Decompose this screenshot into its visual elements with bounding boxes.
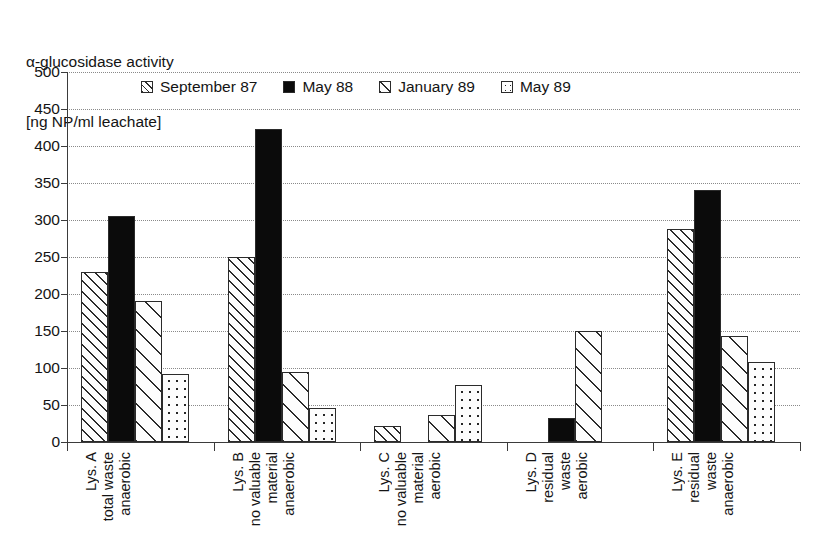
y-tick-450	[61, 109, 68, 110]
x-axis-line	[67, 442, 801, 443]
y-tick-250	[61, 257, 68, 258]
category-label-line: residual	[686, 452, 703, 503]
chart-legend: September 87May 88January 89May 89	[141, 79, 571, 95]
y-tick-150	[61, 331, 68, 332]
bar	[282, 372, 309, 442]
x-tick-3	[507, 443, 508, 451]
y-tick-50	[61, 405, 68, 406]
category-label-line: no valuable	[393, 452, 410, 526]
y-tick-label-50: 50	[12, 397, 60, 413]
category-label: Lys. Bno valuablematerialanaerobic	[230, 452, 298, 552]
category-label-line: Lys. C	[376, 452, 393, 493]
y-tick-label-300: 300	[12, 212, 60, 228]
legend-swatch-icon	[283, 81, 295, 93]
y-tick-label-400: 400	[12, 138, 60, 154]
category-label-line: Lys. E	[669, 452, 686, 492]
legend-swatch-icon	[379, 81, 391, 93]
bar	[428, 415, 455, 442]
category-label-line: aerobic	[427, 452, 444, 500]
bar	[228, 257, 255, 442]
y-tick-label-500: 500	[12, 64, 60, 80]
x-axis-category-labels: Lys. Atotal wasteanaerobicLys. Bno valua…	[67, 452, 800, 556]
plot-area	[67, 72, 800, 442]
gridline-350	[67, 183, 800, 184]
bar	[309, 408, 336, 442]
bar	[162, 374, 189, 442]
legend-swatch-icon	[501, 81, 513, 93]
y-tick-label-0: 0	[12, 434, 60, 450]
category-label-line: Lys. D	[523, 452, 540, 493]
y-tick-label-200: 200	[12, 286, 60, 302]
x-tick-4	[653, 443, 654, 451]
category-label-line: residual	[540, 452, 557, 503]
legend-swatch-icon	[141, 81, 153, 93]
y-tick-100	[61, 368, 68, 369]
bar	[694, 190, 721, 442]
bar	[667, 229, 694, 442]
bar	[455, 385, 482, 442]
gridline-450	[67, 109, 800, 110]
y-tick-300	[61, 220, 68, 221]
y-tick-350	[61, 183, 68, 184]
bar	[108, 216, 135, 442]
bar-chart: 500450400350300250200150100500 September…	[0, 0, 838, 556]
legend-item[interactable]: May 88	[283, 79, 353, 95]
category-label-line: anaerobic	[281, 452, 298, 516]
y-tick-500	[61, 72, 68, 73]
y-tick-label-350: 350	[12, 175, 60, 191]
y-tick-label-150: 150	[12, 323, 60, 339]
y-tick-400	[61, 146, 68, 147]
bar	[374, 426, 401, 442]
legend-label: September 87	[160, 79, 257, 95]
category-label: Lys. Eresidualwasteanaerobic	[669, 452, 737, 552]
category-label-line: waste	[703, 452, 720, 490]
legend-item[interactable]: September 87	[141, 79, 257, 95]
category-label-line: Lys. B	[230, 452, 247, 492]
legend-label: January 89	[398, 79, 475, 95]
bar	[748, 362, 775, 442]
category-label-line: Lys. A	[83, 452, 100, 491]
bar	[548, 418, 575, 442]
legend-label: May 88	[302, 79, 353, 95]
category-label-line: material	[264, 452, 281, 504]
category-label-line: material	[410, 452, 427, 504]
y-tick-label-250: 250	[12, 249, 60, 265]
bar	[135, 301, 162, 442]
legend-item[interactable]: January 89	[379, 79, 475, 95]
y-tick-label-100: 100	[12, 360, 60, 376]
category-label-line: anaerobic	[720, 452, 737, 516]
category-label-line: anaerobic	[117, 452, 134, 516]
y-tick-200	[61, 294, 68, 295]
category-label-line: aerobic	[574, 452, 591, 500]
category-label: Lys. Atotal wasteanaerobic	[83, 452, 134, 552]
category-label-line: total waste	[100, 452, 117, 521]
y-axis-labels: 500450400350300250200150100500	[8, 72, 60, 443]
x-tick-end	[800, 443, 801, 451]
bar	[255, 129, 282, 442]
legend-item[interactable]: May 89	[501, 79, 571, 95]
bar	[575, 331, 602, 442]
gridline-400	[67, 146, 800, 147]
gridline-300	[67, 220, 800, 221]
category-label: Lys. Cno valuablematerialaerobic	[376, 452, 444, 552]
category-label: Lys. Dresidualwasteaerobic	[523, 452, 591, 552]
y-axis-line	[67, 72, 68, 443]
bar	[81, 272, 108, 442]
category-label-line: waste	[557, 452, 574, 490]
gridline-500	[67, 72, 800, 73]
legend-label: May 89	[520, 79, 571, 95]
x-tick-2	[360, 443, 361, 451]
x-tick-1	[214, 443, 215, 451]
category-label-line: no valuable	[247, 452, 264, 526]
bar	[721, 336, 748, 442]
y-tick-label-450: 450	[12, 101, 60, 117]
x-tick-0	[67, 443, 68, 451]
